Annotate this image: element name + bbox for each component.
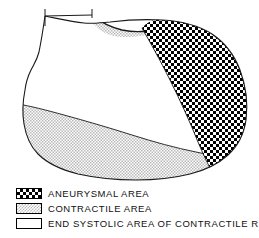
legend: ANEURYSMAL AREA CONTRACTILE AREA END SYS…	[16, 186, 256, 231]
legend-label-contractile: CONTRACTILE AREA	[48, 203, 152, 214]
legend-label-aneurysmal: ANEURYSMAL AREA	[48, 188, 149, 199]
legend-label-end-systolic: END SYSTOLIC AREA OF CONTRACTILE REGION	[48, 218, 259, 229]
legend-swatch-checkerboard-icon	[16, 188, 42, 199]
legend-item-end-systolic: END SYSTOLIC AREA OF CONTRACTILE REGION	[16, 216, 256, 231]
legend-swatch-stipple-icon	[16, 203, 42, 214]
legend-swatch-blank-icon	[16, 218, 42, 229]
legend-item-aneurysmal: ANEURYSMAL AREA	[16, 186, 256, 201]
legend-item-contractile: CONTRACTILE AREA	[16, 201, 256, 216]
